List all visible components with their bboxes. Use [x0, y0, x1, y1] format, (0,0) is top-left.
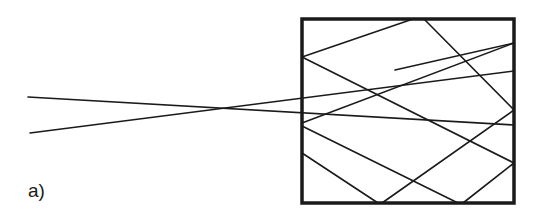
reflected-ray-segment: [302, 153, 378, 203]
reflected-ray-segment: [463, 163, 514, 203]
incident-ray-1: [28, 97, 514, 125]
reflected-ray-segment: [382, 110, 514, 203]
ray-lines: [28, 19, 514, 203]
panel-label: a): [28, 180, 45, 202]
reflected-ray-segment: [302, 19, 413, 57]
reflected-ray-segment: [302, 43, 514, 123]
cavity-ray-diagram: [0, 0, 540, 224]
reflected-ray-segment: [302, 126, 458, 203]
reflected-ray-segment: [302, 57, 514, 163]
reflected-ray-segment: [424, 19, 514, 110]
